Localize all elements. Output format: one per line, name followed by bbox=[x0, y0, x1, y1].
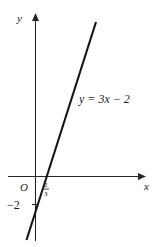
origin-label: O bbox=[20, 181, 28, 193]
function-line bbox=[27, 22, 97, 240]
y-axis-arrow-icon bbox=[32, 13, 39, 21]
x-intercept-fraction-label: 2 3 bbox=[44, 181, 50, 198]
y-intercept-label: −2 bbox=[7, 198, 20, 212]
coordinate-plane: y x O −2 2 3 y = 3x − 2 bbox=[0, 0, 158, 247]
x-axis-label: x bbox=[143, 180, 149, 192]
x-axis-arrow-icon bbox=[138, 173, 146, 180]
equation-label: y = 3x − 2 bbox=[78, 92, 130, 106]
fraction-numerator: 2 bbox=[44, 181, 48, 189]
y-axis-label: y bbox=[16, 12, 22, 24]
linear-graph-figure: y x O −2 2 3 y = 3x − 2 bbox=[0, 0, 158, 247]
fraction-denominator: 3 bbox=[44, 190, 48, 198]
